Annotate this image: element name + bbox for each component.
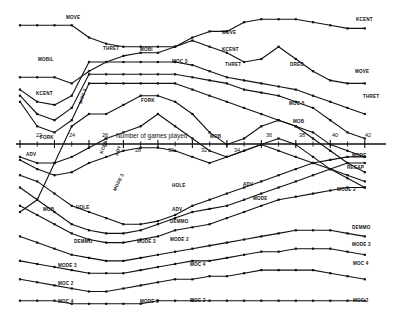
data-point-marker xyxy=(53,300,55,302)
data-point-marker xyxy=(191,156,193,158)
data-point-marker xyxy=(53,76,55,78)
data-point-marker xyxy=(122,82,124,84)
data-point-marker xyxy=(71,82,73,84)
data-point-marker xyxy=(88,113,90,115)
data-point-marker xyxy=(209,95,211,97)
data-point-marker xyxy=(140,82,142,84)
data-point-marker xyxy=(346,232,348,234)
data-point-marker xyxy=(19,159,21,161)
data-point-marker xyxy=(88,162,90,164)
data-point-marker xyxy=(19,89,21,91)
data-point-marker xyxy=(174,251,176,253)
data-point-marker xyxy=(191,64,193,66)
data-point-marker xyxy=(191,205,193,207)
data-point-marker xyxy=(157,113,159,115)
data-point-marker xyxy=(346,174,348,176)
data-point-marker xyxy=(312,137,314,139)
data-point-marker xyxy=(278,174,280,176)
data-point-marker xyxy=(53,162,55,164)
data-point-marker xyxy=(260,82,262,84)
data-point-marker xyxy=(209,208,211,210)
series-label-adv-right-mid: ADV xyxy=(243,183,253,188)
data-point-marker xyxy=(260,300,262,302)
x-axis-title: Number of games played xyxy=(116,133,187,139)
data-point-marker xyxy=(260,205,262,207)
data-point-marker xyxy=(19,95,21,97)
data-point-marker xyxy=(346,275,348,277)
series-label-mode5-mid: MODE 5 xyxy=(140,300,159,305)
data-point-marker xyxy=(19,300,21,302)
data-point-marker xyxy=(157,223,159,225)
data-point-marker xyxy=(329,79,331,81)
data-point-marker xyxy=(226,242,228,244)
series-label-moc4-mid: MOC 4 xyxy=(190,263,206,268)
data-point-marker xyxy=(157,220,159,222)
series-label-mob-right-upper: MOB xyxy=(293,120,304,125)
data-point-marker xyxy=(295,196,297,198)
data-point-marker xyxy=(191,211,193,213)
x-axis-tick-label: 28 xyxy=(135,148,141,154)
data-point-marker xyxy=(364,278,366,280)
data-point-marker xyxy=(278,150,280,152)
data-point-marker xyxy=(209,30,211,32)
series-label-mob-left: MOB xyxy=(43,208,54,213)
series-label-moc2-left: MOC 2 xyxy=(58,282,74,287)
data-point-marker xyxy=(329,119,331,121)
data-point-marker xyxy=(209,245,211,247)
data-point-marker xyxy=(329,300,331,302)
data-point-marker xyxy=(36,281,38,283)
data-point-marker xyxy=(209,70,211,72)
data-point-marker xyxy=(226,300,228,302)
data-point-marker xyxy=(71,107,73,109)
data-point-marker xyxy=(278,18,280,20)
data-point-marker xyxy=(71,232,73,234)
data-point-marker xyxy=(140,229,142,231)
data-point-marker xyxy=(226,193,228,195)
data-point-marker xyxy=(364,171,366,173)
data-point-marker xyxy=(157,52,159,54)
series-label-moc2-mid-lower: MOC 2 xyxy=(190,299,206,304)
data-point-marker xyxy=(278,300,280,302)
data-point-marker xyxy=(71,156,73,158)
data-point-marker xyxy=(243,254,245,256)
data-point-marker xyxy=(209,260,211,262)
data-point-marker xyxy=(295,180,297,182)
data-point-marker xyxy=(329,168,331,170)
series-label-mobil-left: MOBIL xyxy=(38,58,54,63)
data-point-marker xyxy=(243,211,245,213)
data-point-marker xyxy=(209,199,211,201)
data-point-marker xyxy=(122,287,124,289)
data-point-marker xyxy=(295,269,297,271)
data-point-marker xyxy=(364,162,366,164)
x-axis-tick-label: 36 xyxy=(266,133,272,139)
data-point-marker xyxy=(260,58,262,60)
data-point-marker xyxy=(278,137,280,139)
series-label-moc4-left: MOC 4 xyxy=(58,300,74,305)
data-point-marker xyxy=(19,235,21,237)
data-point-marker xyxy=(19,174,21,176)
data-point-marker xyxy=(278,95,280,97)
data-point-marker xyxy=(226,76,228,78)
data-point-marker xyxy=(209,275,211,277)
series-line xyxy=(20,19,365,47)
data-point-marker xyxy=(191,89,193,91)
data-point-marker xyxy=(53,119,55,121)
series-label-thret-mid-upper: THRET xyxy=(103,47,119,52)
data-point-marker xyxy=(226,217,228,219)
data-point-marker xyxy=(140,284,142,286)
data-point-marker xyxy=(295,248,297,250)
data-point-marker xyxy=(88,290,90,292)
data-point-marker xyxy=(312,248,314,250)
data-point-marker xyxy=(174,229,176,231)
data-point-marker xyxy=(122,272,124,274)
data-point-marker xyxy=(295,18,297,20)
data-point-marker xyxy=(88,211,90,213)
data-point-marker xyxy=(226,275,228,277)
data-point-marker xyxy=(140,95,142,97)
series-label-mob-axis: MOB xyxy=(210,135,221,140)
data-point-marker xyxy=(122,61,124,63)
data-point-marker xyxy=(19,278,21,280)
data-point-marker xyxy=(122,55,124,57)
data-point-marker xyxy=(312,95,314,97)
series-label-thret-right: THRET xyxy=(363,95,379,100)
